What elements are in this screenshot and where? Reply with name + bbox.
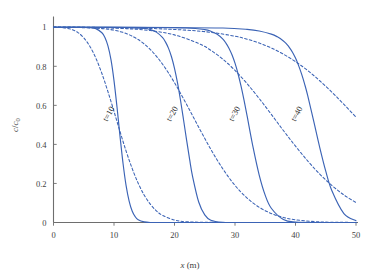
y-tick-label: 0.4 [36, 140, 47, 150]
y-tick-label: 0.8 [36, 62, 47, 72]
concentration-profile-chart: 01020304050 00.20.40.60.81 t=10t=20t=30t… [0, 0, 380, 280]
x-tick-label: 0 [51, 230, 55, 240]
y-tick-label: 0.2 [36, 179, 47, 189]
chart-background [0, 0, 380, 280]
chart-figure: 01020304050 00.20.40.60.81 t=10t=20t=30t… [0, 0, 380, 280]
x-tick-label: 10 [110, 230, 119, 240]
y-tick-label: 0 [42, 218, 46, 228]
y-tick-label: 0.6 [36, 101, 47, 111]
x-tick-label: 20 [170, 230, 179, 240]
x-axis-title: x (m) [179, 260, 199, 270]
y-tick-label: 1 [42, 22, 46, 32]
svg-text:x (m): x (m) [179, 260, 199, 270]
x-tick-label: 30 [231, 230, 240, 240]
x-tick-label: 50 [352, 230, 361, 240]
x-tick-label: 40 [291, 230, 300, 240]
